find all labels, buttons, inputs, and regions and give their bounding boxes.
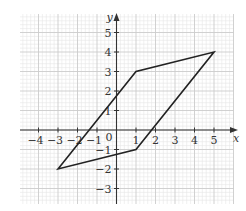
y-tick-label: 4	[105, 46, 112, 59]
y-tick-label: 3	[105, 66, 112, 79]
x-tick-label: −4	[27, 134, 43, 147]
y-tick-label: −2	[95, 163, 111, 176]
grid-major-lines	[20, 14, 234, 204]
y-tick-label: 5	[105, 27, 112, 40]
x-tick-label: −3	[47, 134, 63, 147]
x-axis-label: x	[233, 132, 240, 145]
y-tick-label: −1	[95, 144, 111, 157]
coordinate-plane: −4−3−2−112345−3−2−112345 x y 0	[0, 0, 246, 211]
x-tick-label: 5	[211, 134, 218, 147]
x-tick-label: 2	[152, 134, 159, 147]
axes	[20, 13, 238, 204]
origin-label: 0	[106, 131, 113, 144]
grid-minor-lines	[20, 14, 234, 204]
x-tick-label: 1	[133, 134, 140, 147]
x-tick-label: 3	[172, 134, 179, 147]
y-axis-label: y	[105, 11, 113, 24]
y-tick-label: −3	[95, 183, 111, 196]
y-tick-label: 2	[105, 85, 112, 98]
x-tick-label: 4	[191, 134, 198, 147]
